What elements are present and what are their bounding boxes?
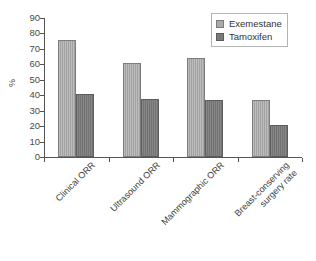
y-axis-tick: [40, 33, 44, 34]
y-axis-tick: [40, 18, 44, 19]
y-axis-tick: [40, 126, 44, 127]
legend-label: Exemestane: [229, 19, 282, 29]
bar: [270, 125, 288, 157]
bar: [76, 94, 94, 157]
y-axis-line: [44, 18, 45, 157]
y-tick-label: 60: [18, 59, 40, 69]
y-tick-label: 10: [18, 137, 40, 147]
y-axis-tick: [40, 111, 44, 112]
chart-legend: ExemestaneTamoxifen: [211, 13, 288, 47]
legend-item: Exemestane: [216, 17, 282, 30]
y-axis-title: %: [7, 63, 17, 103]
y-tick-label: 0: [18, 152, 40, 162]
bar: [58, 40, 76, 157]
bar-chart: % 0102030405060708090 Clinical ORRUltras…: [0, 0, 316, 261]
y-tick-label: 90: [18, 13, 40, 23]
bar: [205, 100, 223, 157]
bar: [252, 100, 270, 157]
bar: [141, 99, 159, 157]
y-tick-label: 80: [18, 28, 40, 38]
y-axis-tick: [40, 64, 44, 65]
y-axis-tick: [40, 49, 44, 50]
y-tick-label: 40: [18, 90, 40, 100]
legend-item: Tamoxifen: [216, 30, 282, 43]
y-axis-tick: [40, 95, 44, 96]
legend-swatch-icon: [216, 20, 224, 28]
bar: [123, 63, 141, 157]
y-axis-tick: [40, 80, 44, 81]
bar: [187, 58, 205, 157]
y-axis-tick: [40, 142, 44, 143]
y-tick-label: 70: [18, 44, 40, 54]
y-tick-label: 30: [18, 106, 40, 116]
y-tick-label: 50: [18, 75, 40, 85]
legend-swatch-icon: [216, 33, 224, 41]
y-tick-label: 20: [18, 121, 40, 131]
x-axis-category-labels: Clinical ORRUltrasound ORRMammographic O…: [44, 158, 316, 261]
legend-label: Tamoxifen: [229, 32, 272, 42]
